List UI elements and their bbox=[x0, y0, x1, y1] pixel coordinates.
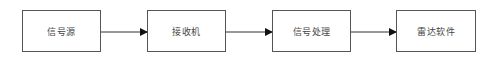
node-signal-processing: 信号处理 bbox=[272, 10, 351, 52]
node-label: 信号源 bbox=[47, 25, 76, 38]
node-radar-software: 雷达软件 bbox=[396, 10, 476, 52]
node-label: 信号处理 bbox=[293, 25, 331, 38]
node-receiver: 接收机 bbox=[147, 10, 226, 52]
node-label: 接收机 bbox=[172, 25, 201, 38]
node-label: 雷达软件 bbox=[417, 25, 455, 38]
node-signal-source: 信号源 bbox=[22, 10, 101, 52]
